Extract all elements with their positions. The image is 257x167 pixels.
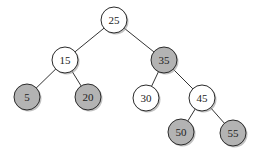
- node-label: 25: [109, 14, 121, 26]
- tree-node-30: 30: [133, 85, 161, 113]
- tree-node-50: 50: [168, 119, 196, 147]
- node-label: 30: [141, 92, 153, 104]
- nodes-group: 25153552030455055: [14, 7, 248, 148]
- node-label: 35: [159, 54, 171, 66]
- node-label: 15: [60, 54, 72, 66]
- tree-diagram: 25153552030455055: [0, 0, 257, 167]
- edges-group: [27, 20, 233, 133]
- tree-node-45: 45: [189, 85, 217, 113]
- tree-node-20: 20: [75, 84, 103, 112]
- tree-node-35: 35: [151, 47, 179, 75]
- node-label: 50: [176, 126, 188, 138]
- tree-node-55: 55: [220, 120, 248, 148]
- node-label: 55: [228, 127, 240, 139]
- node-label: 5: [24, 91, 30, 103]
- node-label: 45: [197, 92, 209, 104]
- node-label: 20: [83, 91, 95, 103]
- tree-node-25: 25: [101, 7, 129, 35]
- tree-node-5: 5: [14, 84, 42, 112]
